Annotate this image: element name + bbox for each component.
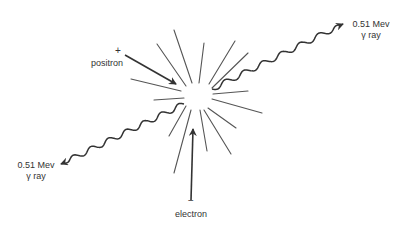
burst-ray: [174, 110, 191, 173]
gamma-ray-lower-left-label: 0.51 Mev γ ray: [13, 160, 59, 181]
annihilation-diagram: 0.51 Mev γ ray 0.51 Mev γ ray + positron…: [0, 0, 410, 227]
burst-ray: [157, 44, 186, 86]
gamma-ray-upper-right-label: 0.51 Mev γ ray: [348, 19, 394, 40]
burst-ray: [131, 79, 181, 91]
positron-label: positron: [91, 58, 123, 68]
gamma-ray-lower-left-path: [61, 103, 184, 164]
electron-sign: −: [188, 196, 194, 206]
burst-ray: [204, 110, 231, 154]
burst-ray: [169, 106, 186, 136]
burst-ray: [200, 110, 207, 151]
burst-ray: [174, 30, 192, 83]
electron-arrow: [191, 129, 193, 200]
gamma-ray-paths: [61, 24, 343, 164]
gamma-type-label: γ ray: [13, 171, 59, 181]
burst-rays: [131, 30, 262, 173]
electron-label: electron: [175, 209, 207, 219]
burst-ray: [213, 91, 248, 94]
gamma-energy-label: 0.51 Mev: [348, 19, 394, 29]
burst-ray: [154, 98, 184, 100]
gamma-type-label: γ ray: [348, 30, 394, 40]
burst-ray: [199, 43, 204, 83]
burst-ray: [208, 108, 236, 128]
particle-arrows: [125, 55, 193, 200]
gamma-ray-upper-right-path: [212, 24, 343, 89]
positron-sign: +: [115, 46, 121, 56]
burst-ray: [212, 99, 262, 113]
gamma-energy-label: 0.51 Mev: [13, 160, 59, 170]
